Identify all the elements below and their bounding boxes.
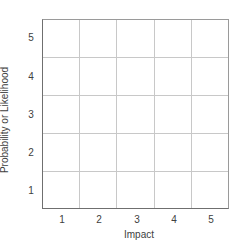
x-tick-label: 2: [92, 214, 106, 226]
gridline-horizontal: [43, 133, 228, 134]
gridline-vertical: [116, 20, 117, 208]
gridline-horizontal: [43, 95, 228, 96]
plot-area: [42, 19, 229, 209]
x-axis-title: Impact: [119, 229, 159, 240]
y-axis-title: Probability or Likelihood: [0, 45, 11, 195]
gridline-vertical: [154, 20, 155, 208]
y-tick-label: 4: [26, 71, 36, 83]
gridline-horizontal: [43, 171, 228, 172]
x-tick-label: 5: [204, 214, 218, 226]
y-tick-label: 2: [26, 147, 36, 159]
x-tick-label: 3: [130, 214, 144, 226]
x-tick-label: 1: [55, 214, 69, 226]
gridline-vertical: [79, 20, 80, 208]
x-tick-label: 4: [167, 214, 181, 226]
y-tick-label: 5: [26, 32, 36, 44]
gridline-horizontal: [43, 57, 228, 58]
y-tick-label: 3: [26, 109, 36, 121]
y-tick-label: 1: [26, 185, 36, 197]
gridline-vertical: [191, 20, 192, 208]
